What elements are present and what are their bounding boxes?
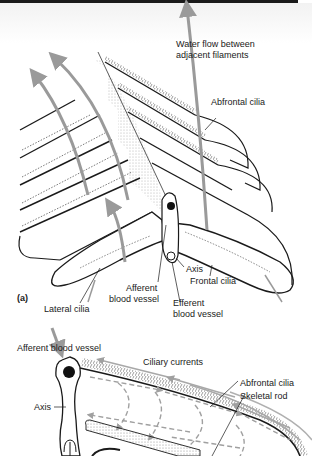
label-afferent-line1: Afferent [126, 283, 157, 294]
label-lateral-cilia: Lateral cilia [44, 304, 90, 315]
label-efferent-line2: blood vessel [173, 309, 223, 320]
label-water-flow-line2: adjacent filaments [176, 50, 249, 61]
label-abfrontal-cilia-b: Abfrontal cilia [240, 378, 294, 389]
panel-a-drawing [19, 8, 293, 303]
diagram-canvas: Water flow between adjacent filaments Ab… [0, 0, 312, 456]
label-skeletal-rod: Skeletal rod [240, 391, 288, 402]
label-axis-a: Axis [186, 264, 203, 275]
label-efferent-line1: Efferent [173, 298, 204, 309]
label-afferent-blood-vessel-b: Afferent blood vessel [17, 343, 101, 354]
panel-a-tag: (a) [17, 293, 28, 304]
label-ciliary-currents: Ciliary currents [143, 357, 203, 368]
label-afferent-line2: blood vessel [109, 294, 159, 305]
label-frontal-cilia: Frontal cilia [190, 276, 236, 287]
label-water-flow-line1: Water flow between [176, 39, 255, 50]
label-axis-b: Axis [34, 402, 51, 413]
label-abfrontal-cilia-a: Abfrontal cilia [211, 97, 265, 108]
